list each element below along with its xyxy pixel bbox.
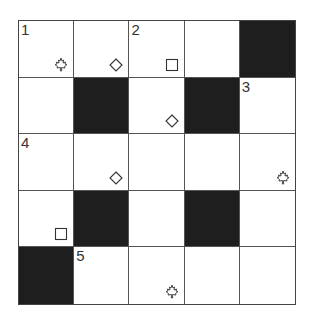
- maple-leaf-icon: [164, 284, 180, 300]
- diamond-icon: [164, 113, 180, 129]
- grid-cell[interactable]: 3: [240, 78, 295, 135]
- grid-cell[interactable]: [19, 78, 74, 135]
- maple-leaf-icon: [53, 57, 69, 73]
- black-cell: [19, 247, 74, 304]
- grid-cell[interactable]: [240, 191, 295, 248]
- grid-cell[interactable]: [240, 134, 295, 191]
- black-cell: [185, 191, 240, 248]
- grid-cell[interactable]: 4: [19, 134, 74, 191]
- clue-number: 4: [21, 135, 29, 150]
- clue-number: 1: [21, 22, 29, 37]
- grid-cell[interactable]: [185, 21, 240, 78]
- black-cell: [240, 21, 295, 78]
- grid-cell[interactable]: [19, 191, 74, 248]
- grid-cell[interactable]: [129, 247, 184, 304]
- crossword-grid: 12345: [18, 20, 296, 305]
- black-cell: [74, 78, 129, 135]
- grid-cell[interactable]: [129, 134, 184, 191]
- grid-cell[interactable]: 5: [74, 247, 129, 304]
- diamond-icon: [108, 170, 124, 186]
- square-icon: [53, 226, 69, 242]
- grid-cell[interactable]: [185, 134, 240, 191]
- diamond-icon: [108, 57, 124, 73]
- grid-cell[interactable]: [185, 247, 240, 304]
- clue-number: 5: [76, 248, 84, 263]
- clue-number: 2: [131, 22, 139, 37]
- grid-cell[interactable]: [240, 247, 295, 304]
- grid-cell[interactable]: [74, 21, 129, 78]
- grid-cell[interactable]: 2: [129, 21, 184, 78]
- black-cell: [185, 78, 240, 135]
- square-icon: [164, 57, 180, 73]
- clue-number: 3: [242, 79, 250, 94]
- grid-cell[interactable]: [129, 78, 184, 135]
- maple-leaf-icon: [275, 170, 291, 186]
- black-cell: [74, 191, 129, 248]
- grid-cell[interactable]: [74, 134, 129, 191]
- grid-cell[interactable]: [129, 191, 184, 248]
- grid-cell[interactable]: 1: [19, 21, 74, 78]
